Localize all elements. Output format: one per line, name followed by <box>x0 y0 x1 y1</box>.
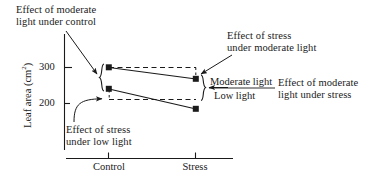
data-point-low-stress <box>193 106 199 112</box>
annotation-line-1: Effect of moderate <box>278 77 358 89</box>
series-label-low-light: Low light <box>214 90 255 101</box>
arrow-to-stress-moderate-gap <box>201 55 232 74</box>
leaf-area-interaction-figure: Leaf area (cm2) 300 200 Control Stress E… <box>0 0 383 186</box>
left-brace <box>100 64 105 91</box>
annotation-line-2: light under control <box>16 16 96 28</box>
annotation-effect-moderate-light-under-stress: Effect of moderate light under stress <box>278 77 358 100</box>
y-axis-title: Leaf area (cm2) <box>20 63 33 128</box>
annotation-line-2: under moderate light <box>227 42 316 54</box>
y-axis-title-text: Leaf area (cm <box>22 70 33 128</box>
annotation-effect-moderate-light-under-control: Effect of moderate light under control <box>16 4 96 27</box>
series-label-moderate-light: Moderate light <box>210 76 272 87</box>
annotation-line-1: Effect of stress <box>227 30 316 42</box>
series-line-moderate-light <box>109 68 196 80</box>
data-point-low-control <box>106 86 112 92</box>
y-tick-label-300: 300 <box>39 61 55 72</box>
right-brace <box>201 75 206 101</box>
y-axis-title-superscript: 2 <box>20 66 28 70</box>
annotation-effect-stress-under-low-light: Effect of stress under low light <box>66 124 132 147</box>
data-point-moderate-stress <box>193 76 199 82</box>
x-category-label-control: Control <box>84 161 134 172</box>
annotation-line-1: Effect of moderate <box>16 4 96 16</box>
annotation-line-2: light under stress <box>278 89 358 101</box>
y-axis-title-close: ) <box>22 63 33 67</box>
annotation-line-1: Effect of stress <box>66 124 132 136</box>
annotation-effect-stress-under-moderate-light: Effect of stress under moderate light <box>227 30 316 53</box>
data-point-moderate-control <box>106 64 112 70</box>
annotation-line-2: under low light <box>66 136 132 148</box>
arrow-to-stress-low-gap <box>74 99 102 122</box>
y-tick-label-200: 200 <box>39 97 55 108</box>
x-category-label-stress: Stress <box>172 161 218 172</box>
